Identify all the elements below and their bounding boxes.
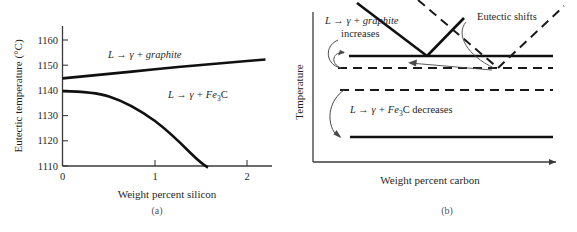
panel-a-ylabel-1120: 1120 bbox=[37, 135, 58, 146]
panel-b: Temperature Weight percent carbon bbox=[293, 0, 564, 217]
panel-b-annot-graphite-line1: L → γ + graphite bbox=[324, 15, 399, 26]
panel-a-label-graphite: L → γ + graphite bbox=[107, 49, 182, 60]
panel-b-shift-arrowhead bbox=[408, 60, 417, 67]
panel-b-annot-eutectic-shifts: Eutectic shifts bbox=[477, 11, 537, 22]
panel-a-label-fe3c: L → γ + Fe3C bbox=[167, 89, 228, 103]
figure-container: 1160 1150 1140 1130 1120 1110 0 1 2 Eute… bbox=[0, 0, 577, 232]
panel-a-ylabel-1150: 1150 bbox=[37, 60, 58, 71]
panel-a-xlabel-2: 2 bbox=[244, 171, 249, 182]
panel-b-y-axis-title: Temperature bbox=[293, 64, 305, 120]
panel-b-fe3c-arrowhead bbox=[334, 130, 342, 138]
panel-a-x-axis-title: Weight percent silicon bbox=[118, 188, 217, 200]
panel-a-y-axis-title: Eutectic temperature (°C) bbox=[12, 39, 25, 152]
panel-a-ylabel-1130: 1130 bbox=[37, 110, 58, 121]
panel-a-curve-graphite bbox=[63, 60, 266, 79]
panel-a-ylabel-1140: 1140 bbox=[37, 85, 58, 96]
panel-a-xlabel-1: 1 bbox=[152, 171, 157, 182]
panel-b-caption: (b) bbox=[441, 205, 453, 217]
panel-a-curve-fe3c bbox=[63, 91, 209, 167]
panel-a-ylabel-1110: 1110 bbox=[38, 161, 58, 172]
panel-b-x-axis-title: Weight percent carbon bbox=[380, 174, 480, 186]
panel-b-fe3c-arrow-curve bbox=[330, 90, 344, 137]
panel-a-ylabel-1160: 1160 bbox=[37, 35, 58, 46]
panel-b-annot-graphite-line2: increases bbox=[341, 28, 379, 39]
panel-b-annot-fe3c-decreases: L → γ + Fe3C decreases bbox=[349, 104, 453, 118]
figure-svg: 1160 1150 1140 1130 1120 1110 0 1 2 Eute… bbox=[0, 0, 577, 232]
panel-a-xlabel-0: 0 bbox=[60, 171, 65, 182]
panel-b-x-axis-arrowhead bbox=[549, 159, 556, 165]
panel-a: 1160 1150 1140 1130 1120 1110 0 1 2 Eute… bbox=[12, 26, 272, 217]
panel-a-caption: (a) bbox=[151, 205, 162, 217]
